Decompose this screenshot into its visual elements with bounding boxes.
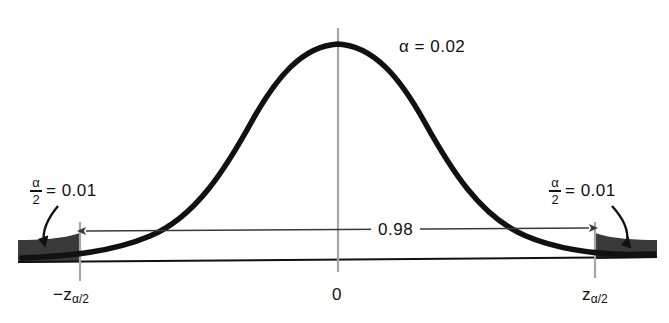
right-tail-area-label: α 2 = 0.01 [549, 176, 616, 206]
x-tick-label-negative-z: −zα/2 [53, 286, 89, 305]
right-tail-leader-arrow [612, 206, 627, 242]
left-tail-leader-arrow [44, 206, 58, 242]
left-tail-fraction: α 2 [30, 176, 42, 206]
right-tail-value: = 0.01 [565, 182, 616, 199]
x-tick-label-zero: 0 [332, 286, 342, 303]
distribution-plot [0, 0, 669, 323]
right-tail-numerator: α [549, 176, 561, 190]
confidence-level-label: 0.98 [371, 220, 420, 239]
x-tick-label-positive-z: zα/2 [582, 286, 608, 305]
left-tail-area-label: α 2 = 0.01 [30, 176, 97, 206]
left-tail-numerator: α [30, 176, 42, 190]
right-tail-fraction: α 2 [549, 176, 561, 206]
tick-left-main: −z [53, 285, 72, 304]
left-tail-denominator: 2 [30, 192, 41, 206]
left-tail-value: = 0.01 [46, 182, 97, 199]
tick-right-main: z [582, 285, 591, 304]
tick-right-subscript: α/2 [591, 292, 608, 306]
tick-left-subscript: α/2 [72, 292, 89, 306]
significance-level-label: α = 0.02 [399, 38, 465, 55]
normal-distribution-figure: α = 0.02 α 2 = 0.01 α 2 = 0.01 0.98 −zα/… [0, 0, 669, 323]
right-tail-denominator: 2 [549, 192, 560, 206]
